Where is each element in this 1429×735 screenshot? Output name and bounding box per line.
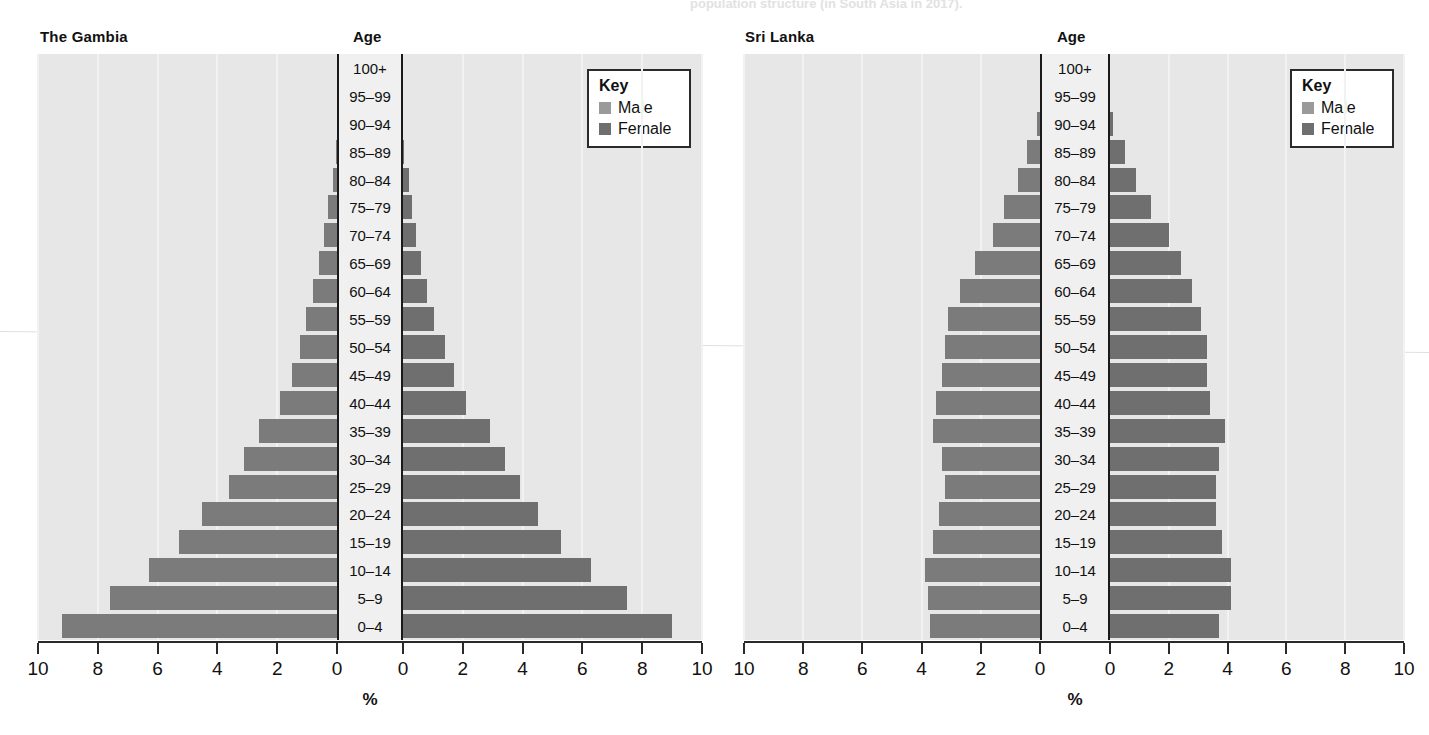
female-swatch-icon-right	[1302, 123, 1314, 135]
x-axis-tick	[641, 643, 643, 654]
bar-male	[930, 614, 1040, 638]
x-axis-tick-label: 0	[317, 658, 357, 680]
bar-male	[942, 363, 1040, 387]
x-axis-tick	[921, 643, 923, 654]
gridline	[921, 54, 923, 640]
x-axis-tick	[1227, 643, 1229, 654]
key-row-female-right: Female	[1302, 120, 1380, 138]
bar-female	[403, 223, 416, 247]
age-group-label: 55–59	[1040, 312, 1110, 327]
bar-female	[1110, 363, 1207, 387]
x-axis-tick	[743, 643, 745, 654]
bar-male	[933, 530, 1040, 554]
bar-female	[1110, 195, 1151, 219]
x-axis-tick	[97, 643, 99, 654]
key-box-left: Key Male Female	[587, 69, 691, 148]
bar-male	[324, 223, 337, 247]
x-axis-tick-label: 8	[783, 658, 823, 680]
key-label-male-left: Male	[618, 99, 653, 117]
x-axis-tick-label: 0	[383, 658, 423, 680]
bar-male	[328, 195, 337, 219]
age-group-label: 70–74	[1040, 228, 1110, 243]
male-swatch-icon-left	[599, 102, 611, 114]
gridline	[1227, 54, 1229, 640]
key-title-left: Key	[599, 77, 677, 95]
age-group-label: 50–54	[337, 340, 403, 355]
key-title-right: Key	[1302, 77, 1380, 95]
x-axis-tick	[276, 643, 278, 654]
bar-male	[202, 502, 337, 526]
bar-female	[403, 168, 409, 192]
x-axis-title-right: %	[1045, 690, 1105, 710]
x-axis-tick	[462, 643, 464, 654]
bar-male	[945, 335, 1040, 359]
key-row-male-right: Male	[1302, 99, 1380, 117]
bar-male	[300, 335, 337, 359]
age-group-label: 90–94	[337, 117, 403, 132]
bar-female	[403, 558, 591, 582]
key-label-female-left: Female	[618, 120, 671, 138]
age-group-label: 10–14	[1040, 563, 1110, 578]
bar-female	[403, 586, 627, 610]
x-axis-line	[38, 641, 702, 643]
age-group-label: 15–19	[1040, 535, 1110, 550]
bar-male	[928, 586, 1040, 610]
x-axis-tick-label: 2	[257, 658, 297, 680]
bar-female	[403, 307, 434, 331]
bar-male	[280, 391, 337, 415]
female-swatch-icon-left	[599, 123, 611, 135]
bar-male	[945, 475, 1040, 499]
x-axis-tick-label: 6	[138, 658, 178, 680]
x-axis-tick	[216, 643, 218, 654]
x-axis-tick-label: 0	[1020, 658, 1060, 680]
age-column-header-left: Age	[353, 28, 381, 45]
age-group-label: 80–84	[1040, 173, 1110, 188]
age-group-label: 45–49	[1040, 368, 1110, 383]
age-group-label: 80–84	[337, 173, 403, 188]
bar-male	[939, 502, 1040, 526]
bar-female	[403, 140, 404, 164]
age-group-label: 100+	[337, 61, 403, 76]
age-column-header-right: Age	[1057, 28, 1085, 45]
x-axis-tick	[1168, 643, 1170, 654]
panel-title-the-gambia: The Gambia	[40, 28, 128, 45]
bar-female	[1110, 558, 1231, 582]
x-axis-tick	[1109, 643, 1111, 654]
gridline	[37, 54, 39, 640]
x-axis-tick-label: 4	[902, 658, 942, 680]
x-axis-tick-label: 8	[78, 658, 118, 680]
bar-female	[1110, 614, 1219, 638]
age-group-label: 65–69	[337, 256, 403, 271]
age-group-label: 35–39	[1040, 424, 1110, 439]
bar-male	[62, 614, 337, 638]
x-axis-tick	[37, 643, 39, 654]
age-group-label: 5–9	[1040, 591, 1110, 606]
male-swatch-icon-right	[1302, 102, 1314, 114]
bar-male	[936, 391, 1040, 415]
x-axis-tick-label: 4	[503, 658, 543, 680]
age-group-label: 40–44	[1040, 396, 1110, 411]
key-label-female-right: Female	[1321, 120, 1374, 138]
x-axis-tick	[336, 643, 338, 654]
age-group-label: 5–9	[337, 591, 403, 606]
age-group-label: 65–69	[1040, 256, 1110, 271]
age-group-label: 20–24	[1040, 507, 1110, 522]
age-group-label: 25–29	[1040, 480, 1110, 495]
age-group-label: 15–19	[337, 535, 403, 550]
age-group-label: 95–99	[1040, 89, 1110, 104]
age-group-label: 85–89	[337, 145, 403, 160]
x-axis-tick	[701, 643, 703, 654]
bar-female	[403, 475, 520, 499]
bar-female	[403, 251, 421, 275]
x-axis-tick-label: 8	[1325, 658, 1365, 680]
x-axis-title-left: %	[340, 690, 400, 710]
x-axis-tick	[402, 643, 404, 654]
key-row-male-left: Male	[599, 99, 677, 117]
gridline	[861, 54, 863, 640]
age-group-label: 0–4	[337, 619, 403, 634]
bar-female	[403, 419, 490, 443]
bar-male	[149, 558, 337, 582]
x-axis-tick-label: 2	[961, 658, 1001, 680]
population-pyramid-figure: population structure (in South Asia in 2…	[0, 0, 1429, 735]
bar-female	[403, 391, 466, 415]
